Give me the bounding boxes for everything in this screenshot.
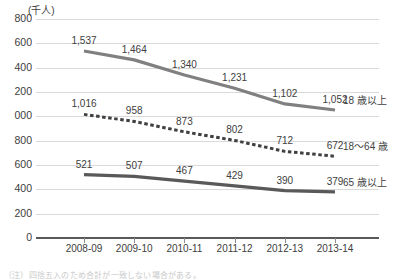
series-lines-group: [36, 19, 379, 238]
y-axis-unit-label: (千人): [28, 2, 55, 17]
x-axis-tick-label: 2009-10: [116, 243, 153, 254]
series-name-label: 18 歳以上: [343, 92, 387, 107]
y-axis-tick-label: 0: [0, 231, 32, 243]
y-axis-tick-label: 400: [0, 61, 32, 73]
data-point-label: 1,231: [222, 72, 247, 83]
data-point-label: 1,537: [71, 35, 96, 46]
series-name-label: 18～64 歳: [343, 138, 388, 153]
plot-area: 8006004002000008006004002000 2008-092009…: [36, 19, 379, 238]
x-axis-tick-label: 2008-09: [66, 243, 103, 254]
data-point-label: 521: [76, 159, 93, 170]
x-axis-tick-label: 2011-12: [217, 243, 253, 254]
x-axis-tick-label: 2013-14: [317, 243, 354, 254]
data-point-label: 1,340: [172, 59, 197, 70]
data-point-label: 672: [327, 140, 344, 151]
series-line: [84, 51, 335, 110]
y-axis-tick-label: 200: [0, 85, 32, 97]
y-axis-tick-label: 600: [0, 36, 32, 48]
data-point-label: 390: [276, 175, 293, 186]
y-axis-tick-label: 600: [0, 158, 32, 170]
data-point-label: 1,464: [122, 44, 147, 55]
data-point-label: 467: [176, 165, 193, 176]
y-axis-tick-label: 200: [0, 207, 32, 219]
y-axis-tick-label: 800: [0, 12, 32, 24]
footer-note: （注）四捨五入のため合計が一致しない場合がある。: [4, 269, 201, 280]
x-axis-tick-label: 2010-11: [166, 243, 202, 254]
series-name-label: 65 歳以上: [343, 174, 387, 189]
data-point-label: 429: [226, 170, 243, 181]
y-axis-tick-label: 400: [0, 182, 32, 194]
data-point-label: 873: [176, 116, 193, 127]
data-point-label: 802: [226, 124, 243, 135]
series-line: [84, 175, 335, 192]
data-point-label: 1,102: [272, 88, 297, 99]
data-point-label: 379: [327, 176, 344, 187]
data-point-label: 712: [276, 135, 293, 146]
series-line: [84, 114, 335, 156]
y-axis-tick-label: 800: [0, 134, 32, 146]
data-point-label: 507: [126, 160, 143, 171]
data-point-label: 958: [126, 105, 143, 116]
y-axis-tick-label: 000: [0, 109, 32, 121]
x-axis-tick-label: 2012-13: [266, 243, 303, 254]
data-point-label: 1,016: [71, 98, 96, 109]
